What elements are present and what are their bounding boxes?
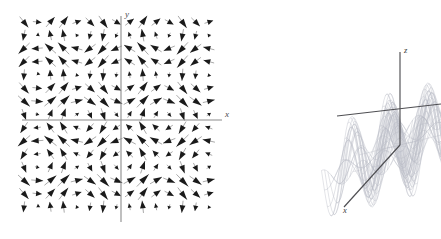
- vector-arrow-head: [34, 125, 39, 129]
- vector-arrow-head: [100, 112, 106, 120]
- vector-arrow-head: [85, 58, 93, 65]
- vector-arrow-head: [75, 191, 82, 197]
- vector-arrow-head: [127, 177, 136, 184]
- vector-arrow-head: [124, 58, 132, 65]
- vector-arrow-head: [193, 205, 198, 211]
- vector-arrow-head: [154, 203, 158, 208]
- z-axis-label-3d: z: [403, 45, 408, 55]
- vector-arrow-head: [140, 108, 146, 117]
- vector-arrow-head: [47, 96, 56, 104]
- vector-arrow-head: [192, 151, 199, 158]
- vector-arrow-head: [100, 190, 108, 199]
- vector-arrow-head: [167, 177, 175, 183]
- vector-arrow-head: [179, 19, 187, 28]
- vector-arrow-head: [101, 33, 107, 41]
- vector-arrow-head: [87, 151, 94, 158]
- vector-arrow-head: [192, 98, 201, 106]
- vector-arrow-head: [44, 136, 53, 144]
- vector-arrow-head: [48, 70, 54, 76]
- vector-arrow-head: [193, 34, 198, 40]
- vector-arrow-head: [179, 190, 187, 199]
- vector-arrow-head: [87, 177, 96, 185]
- vector-arrow-head: [110, 138, 119, 144]
- vector-arrow-head: [84, 45, 93, 52]
- vector-arrow-head: [207, 191, 214, 197]
- vector-field-arrow-group: [18, 16, 215, 213]
- vector-arrow-head: [150, 137, 159, 144]
- vector-arrow-head: [180, 205, 186, 213]
- vector-arrow-head: [88, 74, 93, 79]
- vector-arrow-head: [37, 204, 41, 207]
- vector-arrow-head: [100, 19, 108, 28]
- vector-arrow-head: [115, 74, 119, 77]
- vector-arrow-head: [113, 125, 119, 130]
- vector-arrow-head: [21, 33, 27, 40]
- vector-arrow-head: [115, 206, 119, 210]
- y-axis-label: y: [124, 9, 129, 19]
- vector-arrow-head: [21, 151, 28, 159]
- vector-arrow-head: [48, 202, 54, 208]
- vector-arrow-head: [36, 85, 42, 91]
- vector-arrow-head: [153, 98, 162, 105]
- vector-arrow-head: [75, 113, 79, 116]
- vector-arrow-head: [111, 58, 119, 64]
- vector-arrow-head: [154, 71, 158, 76]
- vector-arrow-head: [37, 72, 41, 76]
- vector-arrow-head: [180, 33, 186, 41]
- vector-arrow-head: [75, 99, 83, 105]
- vector-arrow-head: [60, 82, 68, 91]
- vector-arrow-head: [71, 46, 79, 52]
- vector-arrow-head: [71, 59, 78, 65]
- vector-arrow-head: [127, 164, 132, 169]
- vector-arrow-head: [127, 85, 135, 92]
- vector-arrow-head: [47, 149, 54, 157]
- vector-arrow-head: [163, 138, 172, 144]
- vector-arrow-head: [34, 152, 39, 156]
- vector-arrow-head: [21, 73, 27, 80]
- vector-arrow-head: [100, 125, 107, 134]
- vector-arrow-head: [100, 73, 106, 81]
- vector-arrow-head: [203, 59, 210, 65]
- vector-arrow-head: [139, 82, 147, 91]
- vector-arrow-head: [153, 85, 161, 92]
- vector-arrow-head: [61, 69, 67, 76]
- vector-arrow-head: [123, 137, 132, 144]
- vector-arrow-head: [36, 112, 39, 116]
- vector-arrow-head: [127, 190, 134, 196]
- vector-arrow-head: [164, 58, 172, 64]
- vector-arrow-head: [36, 177, 44, 183]
- vector-arrow-head: [139, 121, 146, 130]
- vector-arrow-head: [32, 59, 39, 65]
- vector-arrow-head: [166, 125, 172, 130]
- surface-mesh-plot: z x: [240, 0, 441, 239]
- vector-arrow-head: [61, 201, 67, 209]
- vector-arrow-head: [164, 45, 172, 51]
- vector-arrow-head: [127, 98, 136, 105]
- vector-arrow-head: [203, 138, 211, 144]
- vector-arrow-head: [153, 19, 160, 26]
- vector-arrow-head: [139, 148, 146, 157]
- vector-arrow-head: [75, 20, 81, 25]
- vector-arrow-head: [21, 165, 26, 173]
- vector-arrow-head: [36, 19, 42, 24]
- surface-panel: z x: [240, 0, 441, 239]
- vector-arrow-head: [140, 161, 145, 170]
- vector-arrow-head: [190, 45, 199, 53]
- vector-arrow-head: [167, 98, 175, 104]
- vector-arrow-head: [207, 178, 215, 184]
- vector-arrow-head: [150, 45, 158, 52]
- vector-arrow-head: [76, 34, 79, 38]
- vector-arrow-head: [76, 205, 80, 209]
- vector-arrow-head: [114, 19, 121, 25]
- vector-arrow-head: [47, 176, 56, 184]
- vector-arrow-head: [75, 178, 83, 184]
- vector-arrow-head: [207, 73, 211, 77]
- vector-arrow-head: [128, 71, 132, 75]
- vector-arrow-head: [208, 205, 212, 209]
- vector-arrow-head: [88, 205, 93, 211]
- vector-arrow-head: [166, 151, 172, 156]
- vector-arrow-head: [20, 125, 27, 133]
- vector-arrow-head: [60, 148, 67, 157]
- vector-arrow-head: [60, 122, 67, 131]
- vector-arrow-head: [127, 111, 132, 116]
